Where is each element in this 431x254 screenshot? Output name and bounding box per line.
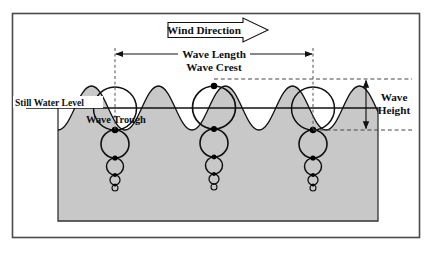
orbit-particle-dot-2 <box>211 126 217 132</box>
water-fill-shape <box>58 86 393 221</box>
orbit-particle-dot-4 <box>113 183 116 186</box>
wave-trough-label: Wave Trough <box>86 114 146 125</box>
orbit-particle-dot-4 <box>212 172 216 176</box>
wave-crest-label: Wave Crest <box>186 61 242 73</box>
wind-direction-arrow: Wind Direction <box>167 18 268 42</box>
orbit-particle-dot-3 <box>212 155 217 160</box>
orbit-particle-dot-1 <box>211 83 217 89</box>
wave-diagram: Wave Length Wind Direction Wave Crest Wa… <box>0 0 431 254</box>
wave-length-label: Wave Length <box>182 48 246 60</box>
orbit-particle-dot-4 <box>311 183 314 186</box>
still-water-level-label: Still Water Level <box>15 97 84 108</box>
wind-direction-label: Wind Direction <box>167 24 242 36</box>
wave-height-label-line1: Wave <box>381 91 408 103</box>
water-body <box>58 86 393 221</box>
orbit-particle-dot-2 <box>112 155 117 160</box>
wave-height-label-line2: Height <box>378 104 411 116</box>
orbit-particle-dot-2 <box>310 155 315 160</box>
wave-diagram-canvas: Wave Length Wind Direction Wave Crest Wa… <box>0 0 431 254</box>
orbit-particle-dot-3 <box>113 173 117 177</box>
orbit-particle-dot-3 <box>311 173 315 177</box>
